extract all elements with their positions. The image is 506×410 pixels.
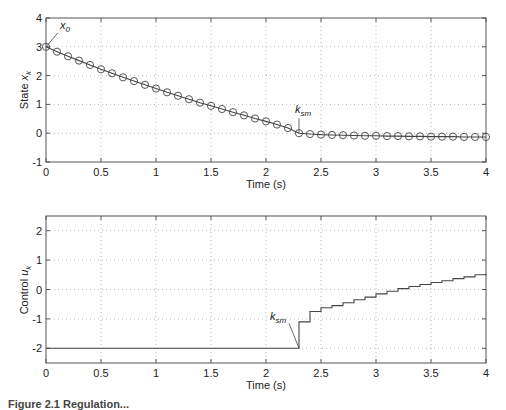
x-tick-label: 1.5 [203,166,218,178]
x-tick-label: 4 [483,166,489,178]
y-tick-label: 1 [36,98,42,110]
x-tick-label: 1 [153,166,159,178]
x-tick-label: 0 [43,367,49,379]
annotation-label: x0 [59,19,71,34]
y-tick-label: 1 [36,254,42,266]
state-xlabel: Time (s) [246,178,286,190]
x-tick-label: 4 [483,367,489,379]
control-plot: 00.511.522.533.54-2-1012 ksm Time (s) Co… [18,216,489,391]
control-series [46,274,486,348]
x-tick-label: 3.5 [423,367,438,379]
state-ylabel: State xk [18,70,33,109]
state-plot: 00.511.522.533.54-101234 x0ksm Time (s) … [18,12,490,190]
x-tick-label: 0 [43,166,49,178]
y-tick-label: -1 [32,156,42,168]
control-plot-grid [46,216,486,363]
control-xlabel: Time (s) [246,379,286,391]
x-tick-label: 2.5 [313,367,328,379]
annotation-pointer [289,323,299,348]
y-tick-label: 2 [36,225,42,237]
y-tick-label: 4 [36,12,42,24]
x-tick-label: 2.5 [313,166,328,178]
series-line [46,47,486,137]
x-tick-label: 1.5 [203,367,218,379]
x-tick-label: 0.5 [93,367,108,379]
x-tick-label: 0.5 [93,166,108,178]
control-annotations: ksm [270,310,299,348]
x-tick-label: 2 [263,166,269,178]
y-tick-label: 2 [36,70,42,82]
y-tick-label: -1 [32,313,42,325]
annotation-label: ksm [295,103,312,118]
x-tick-label: 3.5 [423,166,438,178]
y-tick-label: 3 [36,41,42,53]
control-ylabel: Control uk [18,265,33,315]
y-tick-label: 0 [36,127,42,139]
x-tick-label: 3 [373,166,379,178]
annotation-label: ksm [270,310,287,325]
annotation-pointer [46,33,58,47]
state-series [42,43,489,140]
y-tick-label: 0 [36,284,42,296]
x-tick-label: 1 [153,367,159,379]
y-tick-label: -2 [32,342,42,354]
x-tick-label: 2 [263,367,269,379]
x-tick-label: 3 [373,367,379,379]
figure-caption: Figure 2.1 Regulation... [8,398,129,410]
series-line [46,274,486,348]
